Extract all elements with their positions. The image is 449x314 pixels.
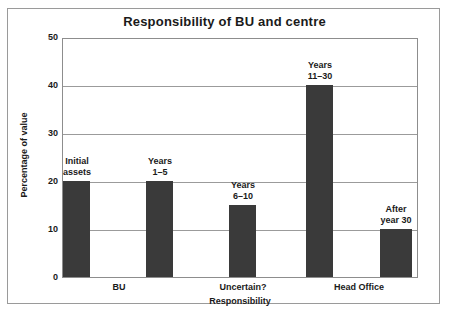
bar-label-after-year-30: After year 30: [369, 204, 423, 226]
bar-label-line2: assets: [51, 167, 103, 178]
group-bracket-bu: BU: [64, 281, 174, 295]
bar-after-year-30[interactable]: [380, 229, 412, 277]
bar-label-line1: After: [369, 204, 423, 215]
bar-label-initial-assets: Initial assets: [51, 156, 103, 178]
bar-label-line1: Years: [134, 156, 186, 167]
bar-label-line1: Years: [294, 60, 346, 71]
chart-title: Responsibility of BU and centre: [0, 14, 449, 29]
bar-years-11-30[interactable]: [306, 85, 333, 277]
y-tick-50: 50: [30, 32, 58, 42]
gridline-30: [63, 134, 417, 135]
plot-area: Initial assets Years 1–5 Years 6–10 Year…: [62, 38, 418, 278]
y-tick-10: 10: [30, 224, 58, 234]
group-bracket-head-office: Head Office: [302, 281, 416, 295]
bar-label-years-1-5: Years 1–5: [134, 156, 186, 178]
y-tick-30: 30: [30, 128, 58, 138]
bar-label-line1: Initial: [51, 156, 103, 167]
x-axis-groups: BU Uncertain? Head Office: [62, 281, 418, 297]
bar-label-line1: Years: [217, 180, 269, 191]
bar-label-years-11-30: Years 11–30: [294, 60, 346, 82]
group-label-uncertain: Uncertain?: [191, 281, 295, 294]
bar-label-years-6-10: Years 6–10: [217, 180, 269, 202]
group-label-head-office: Head Office: [302, 281, 416, 294]
bar-years-6-10[interactable]: [229, 205, 256, 277]
gridline-40: [63, 86, 417, 87]
x-axis-label: Responsibility: [62, 296, 418, 306]
y-tick-40: 40: [30, 80, 58, 90]
group-label-bu: BU: [64, 281, 174, 294]
y-tick-0: 0: [30, 272, 58, 282]
bar-label-line2: 1–5: [134, 167, 186, 178]
group-bracket-uncertain: Uncertain?: [191, 281, 295, 295]
bar-years-1-5[interactable]: [146, 181, 173, 277]
bar-label-line2: year 30: [369, 215, 423, 226]
bar-label-line2: 11–30: [294, 71, 346, 82]
chart-figure: Responsibility of BU and centre Percenta…: [0, 0, 449, 314]
bar-initial-assets[interactable]: [63, 181, 90, 277]
bar-label-line2: 6–10: [217, 191, 269, 202]
